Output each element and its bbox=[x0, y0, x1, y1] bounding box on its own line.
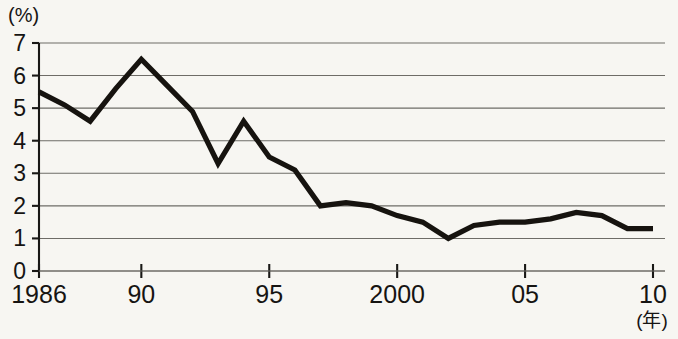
y-tick-label: 3 bbox=[13, 160, 26, 186]
line-chart: 76543210 1986909520000510 (%) (年) bbox=[0, 0, 678, 339]
y-tick-label: 7 bbox=[13, 30, 26, 56]
y-tick-label: 5 bbox=[13, 95, 26, 121]
y-tick-label: 2 bbox=[13, 193, 26, 219]
x-tick-label: 90 bbox=[127, 280, 155, 308]
data-series-line bbox=[39, 59, 653, 238]
gridlines-group bbox=[39, 43, 665, 271]
y-tick-labels-group: 76543210 bbox=[13, 30, 26, 284]
chart-container: 76543210 1986909520000510 (%) (年) bbox=[0, 0, 678, 339]
y-axis-unit-label: (%) bbox=[8, 4, 39, 26]
x-tick-label: 05 bbox=[511, 280, 539, 308]
x-tick-labels-group: 1986909520000510 bbox=[11, 280, 667, 308]
x-axis-unit-label: (年) bbox=[636, 310, 668, 331]
y-tick-label: 6 bbox=[13, 63, 26, 89]
x-tick-label: 95 bbox=[255, 280, 283, 308]
y-tick-label: 4 bbox=[13, 128, 26, 154]
x-tick-label: 2000 bbox=[369, 280, 425, 308]
x-tick-label: 1986 bbox=[11, 280, 67, 308]
x-tick-label: 10 bbox=[639, 280, 667, 308]
y-tick-label: 1 bbox=[13, 225, 26, 251]
